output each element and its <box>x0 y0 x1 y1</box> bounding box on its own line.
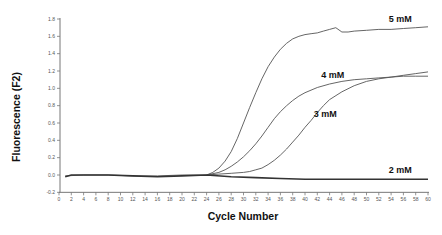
x-tick-label: 38 <box>290 196 296 202</box>
series-label-3-mm: 3 mM <box>314 109 337 119</box>
y-tick-label: 0.4 <box>48 137 55 143</box>
x-tick-label: 46 <box>339 196 345 202</box>
series-line-4-mm <box>207 76 428 175</box>
x-tick-label: 32 <box>253 196 259 202</box>
x-tick-label: 10 <box>118 196 124 202</box>
x-tick-label: 26 <box>216 196 222 202</box>
y-tick-label: 0.0 <box>48 172 55 178</box>
x-tick-label: 60 <box>425 196 431 202</box>
x-tick-label: 50 <box>364 196 370 202</box>
x-tick-label: 2 <box>70 196 73 202</box>
x-tick-label: 28 <box>228 196 234 202</box>
x-tick-label: 18 <box>167 196 173 202</box>
series-label-5-mm: 5 mM <box>389 14 412 24</box>
x-tick-label: 30 <box>241 196 247 202</box>
x-axis: 0246810121416182022242628303234363840424… <box>58 192 431 202</box>
x-tick-label: 58 <box>413 196 419 202</box>
x-tick-label: 44 <box>327 196 333 202</box>
x-tick-label: 24 <box>204 196 210 202</box>
y-tick-label: 0.6 <box>48 120 55 126</box>
x-tick-label: 12 <box>130 196 136 202</box>
x-tick-label: 16 <box>155 196 161 202</box>
y-tick-label: 1.2 <box>48 68 55 74</box>
x-tick-label: 6 <box>95 196 98 202</box>
x-tick-label: 34 <box>265 196 271 202</box>
x-tick-label: 56 <box>401 196 407 202</box>
series-label-2-mm: 2 mM <box>389 165 412 175</box>
x-tick-label: 48 <box>351 196 357 202</box>
x-tick-label: 54 <box>388 196 394 202</box>
x-tick-label: 36 <box>278 196 284 202</box>
y-tick-label: 0.8 <box>48 102 55 108</box>
x-tick-label: 40 <box>302 196 308 202</box>
x-tick-label: 52 <box>376 196 382 202</box>
series-labels: 5 mM4 mM3 mM2 mM <box>314 14 412 175</box>
x-tick-label: 4 <box>82 196 85 202</box>
fluorescence-chart: -0.20.00.20.40.60.81.01.21.41.61.8 02468… <box>0 0 442 235</box>
y-tick-label: -0.2 <box>46 189 55 195</box>
x-tick-label: 20 <box>179 196 185 202</box>
x-tick-label: 8 <box>107 196 110 202</box>
x-tick-label: 14 <box>142 196 148 202</box>
x-tick-label: 0 <box>58 196 61 202</box>
y-tick-label: 1.4 <box>48 50 55 56</box>
series-line-2-mm <box>65 175 428 179</box>
series-label-4-mm: 4 mM <box>321 70 344 80</box>
x-tick-label: 42 <box>315 196 321 202</box>
y-tick-label: 1.6 <box>48 33 55 39</box>
y-tick-label: 0.2 <box>48 154 55 160</box>
series-group <box>65 27 428 180</box>
y-tick-label: 1.0 <box>48 85 55 91</box>
x-tick-label: 22 <box>192 196 198 202</box>
x-axis-title: Cycle Number <box>208 210 279 222</box>
y-axis-title: Fluorescence (F2) <box>10 72 22 162</box>
y-axis: -0.20.00.20.40.60.81.01.21.41.61.8 <box>46 16 60 195</box>
y-tick-label: 1.8 <box>48 16 55 22</box>
